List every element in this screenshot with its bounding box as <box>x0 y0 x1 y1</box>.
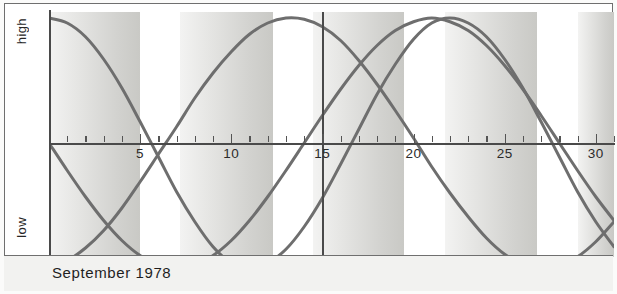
x-axis-tick <box>578 136 579 142</box>
x-axis-tick <box>195 136 196 142</box>
x-axis-tick-label: 30 <box>588 146 604 161</box>
x-axis-tick-label: 10 <box>223 146 239 161</box>
x-axis-tick <box>450 136 451 142</box>
x-axis-tick <box>104 136 105 142</box>
x-axis-tick <box>395 136 396 142</box>
x-axis-tick-label: 5 <box>136 146 144 161</box>
x-axis-tick <box>177 136 178 142</box>
y-axis-line <box>49 10 51 259</box>
x-axis-line <box>49 143 615 145</box>
x-axis-tick <box>140 134 141 143</box>
x-axis-tick <box>122 136 123 142</box>
x-axis-tick <box>468 136 469 142</box>
x-axis-tick-label: 20 <box>406 146 422 161</box>
x-axis-tick <box>249 136 250 142</box>
x-axis-tick <box>414 134 415 143</box>
x-axis-tick <box>505 134 506 143</box>
x-axis-tick-label: 15 <box>314 146 330 161</box>
x-axis-tick <box>341 136 342 142</box>
x-axis-tick <box>486 136 487 142</box>
biorhythm-chart-figure: 51015202530 high low September 1978 <box>0 0 617 294</box>
curve-physical <box>49 18 614 257</box>
figure-frame: 51015202530 high low <box>4 3 613 291</box>
x-axis-tick <box>614 136 615 142</box>
x-axis-tick <box>432 136 433 142</box>
x-axis-tick <box>377 136 378 142</box>
curve-emotional <box>49 18 614 257</box>
y-axis-label-high: high <box>14 18 29 44</box>
x-axis-tick <box>213 136 214 142</box>
x-axis-tick <box>85 136 86 142</box>
x-axis-tick <box>541 136 542 142</box>
x-axis-tick <box>158 136 159 142</box>
x-axis-tick <box>67 136 68 142</box>
x-axis-tick <box>286 136 287 142</box>
x-axis-tick <box>523 136 524 142</box>
x-axis-tick <box>231 134 232 143</box>
y-axis-label-low: low <box>14 217 29 238</box>
biorhythm-curves <box>49 12 614 257</box>
curve-intellectual <box>49 18 614 257</box>
x-axis-tick <box>304 136 305 142</box>
x-axis-tick <box>322 134 323 143</box>
x-axis-tick <box>268 136 269 142</box>
plot-area <box>49 12 614 257</box>
x-axis-tick <box>596 134 597 143</box>
x-axis-tick-label: 25 <box>497 146 513 161</box>
x-axis-tick <box>559 136 560 142</box>
caption-bar: September 1978 <box>4 255 613 291</box>
x-axis-tick <box>359 136 360 142</box>
caption-label: September 1978 <box>52 264 171 281</box>
